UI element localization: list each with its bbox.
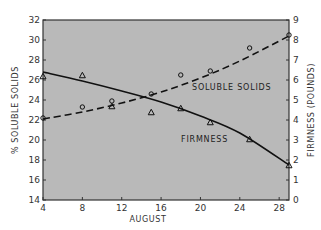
chart: 14161820222426283032 0123456789 48121620… — [0, 0, 321, 230]
left-tick-label: 20 — [29, 135, 41, 145]
right-tick-label: 0 — [293, 195, 299, 205]
right-tick-label: 6 — [293, 75, 299, 85]
x-tick-label: 28 — [273, 203, 285, 213]
left-axis-title: % SOLUBLE SOLIDS — [11, 66, 20, 154]
x-tick-label: 20 — [195, 203, 207, 213]
left-tick-label: 16 — [29, 175, 41, 185]
left-tick-label: 26 — [29, 75, 41, 85]
right-tick-label: 5 — [293, 95, 299, 105]
left-tick-label: 28 — [29, 55, 41, 65]
x-tick-label: 16 — [155, 203, 167, 213]
x-tick-label: 12 — [116, 203, 127, 213]
x-axis-title: AUGUST — [130, 215, 167, 224]
right-tick-label: 4 — [293, 115, 299, 125]
x-tick-label: 4 — [40, 203, 46, 213]
right-tick-label: 7 — [293, 55, 299, 65]
x-tick-label: 24 — [234, 203, 246, 213]
left-tick-label: 32 — [29, 15, 40, 25]
right-tick-label: 1 — [293, 175, 299, 185]
left-tick-label: 14 — [29, 195, 41, 205]
right-tick-label: 2 — [293, 155, 299, 165]
firmness-label: FIRMNESS — [181, 135, 228, 144]
x-tick-label: 8 — [79, 203, 85, 213]
right-tick-label: 9 — [293, 15, 299, 25]
left-tick-label: 30 — [29, 35, 41, 45]
left-tick-label: 22 — [29, 115, 40, 125]
right-axis-title: FIRMNESS (POUNDS) — [307, 63, 316, 157]
left-tick-label: 18 — [29, 155, 41, 165]
soluble-solids-label: SOLUBLE SOLIDS — [192, 83, 271, 92]
right-tick-label: 3 — [293, 135, 299, 145]
right-tick-label: 8 — [293, 35, 299, 45]
left-tick-label: 24 — [29, 95, 41, 105]
